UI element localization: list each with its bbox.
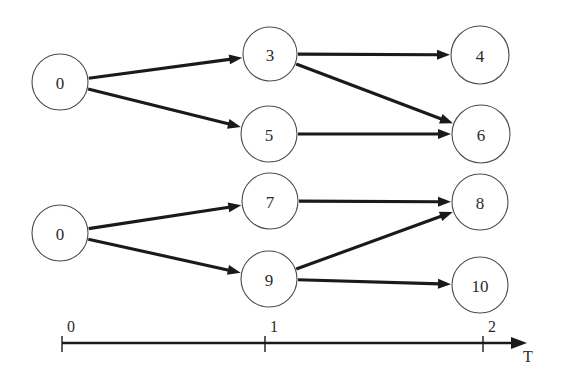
edge-3-to-6 <box>296 64 453 124</box>
edge-0-to-5 <box>88 89 241 129</box>
node-label: 7 <box>266 193 275 212</box>
node-n5[interactable]: 5 <box>241 106 297 162</box>
edge-line <box>298 280 440 284</box>
edge-0-to-3 <box>89 54 243 78</box>
node-label: 4 <box>476 47 485 66</box>
node-label: 5 <box>265 126 274 145</box>
arrowhead-icon <box>439 114 453 123</box>
axis-tick-1: 1 <box>265 318 278 352</box>
node-n8[interactable]: 8 <box>452 174 508 230</box>
edge-line <box>296 64 442 120</box>
edge-line <box>89 59 232 78</box>
node-n6[interactable]: 6 <box>452 105 510 163</box>
arrowhead-icon <box>438 197 451 207</box>
edge-0-to-9 <box>88 239 240 275</box>
time-axis: 012T <box>62 318 533 365</box>
edge-9-to-10 <box>298 279 451 289</box>
tick-label: 0 <box>67 318 75 335</box>
arrowhead-icon <box>227 265 241 275</box>
node-label: 10 <box>472 277 489 296</box>
edge-3-to-4 <box>298 50 450 60</box>
node-label: 0 <box>56 225 65 244</box>
axis-name-label: T <box>523 348 533 365</box>
edge-line <box>296 216 442 269</box>
node-label: 9 <box>265 271 274 290</box>
arrowhead-icon <box>229 54 243 64</box>
tick-label: 2 <box>488 318 496 335</box>
arrowhead-icon <box>228 202 242 212</box>
node-n0b[interactable]: 0 <box>32 205 88 261</box>
edge-0-to-7 <box>89 202 242 228</box>
node-label: 8 <box>476 194 485 213</box>
edge-line <box>299 201 440 202</box>
node-n4[interactable]: 4 <box>451 26 509 84</box>
edge-line <box>89 207 231 229</box>
arrowhead-icon <box>437 50 450 60</box>
edge-line <box>298 54 439 55</box>
edge-line <box>88 239 230 270</box>
node-label: 6 <box>477 126 486 145</box>
edge-9-to-8 <box>296 212 453 269</box>
axis-tick-0: 0 <box>62 318 75 352</box>
arrowhead-icon <box>439 212 453 221</box>
temporal-graph-figure: 03546079810 012T <box>0 0 562 385</box>
arrowhead-icon <box>438 129 451 139</box>
node-n3[interactable]: 3 <box>243 27 297 81</box>
axis-tick-2: 2 <box>483 318 496 352</box>
node-n7[interactable]: 7 <box>242 173 298 229</box>
edge-5-to-6 <box>298 129 451 139</box>
node-label: 0 <box>56 74 65 93</box>
edge-7-to-8 <box>299 197 451 207</box>
diagram-canvas: 03546079810 012T <box>0 0 562 385</box>
arrowhead-icon <box>438 279 451 289</box>
node-n10[interactable]: 10 <box>452 257 508 313</box>
edge-line <box>88 89 230 124</box>
tick-label: 1 <box>270 318 278 335</box>
arrowhead-icon <box>227 119 241 129</box>
node-label: 3 <box>266 46 275 65</box>
node-n0a[interactable]: 0 <box>32 54 88 110</box>
nodes-layer: 03546079810 <box>32 26 510 313</box>
node-n9[interactable]: 9 <box>241 251 297 307</box>
